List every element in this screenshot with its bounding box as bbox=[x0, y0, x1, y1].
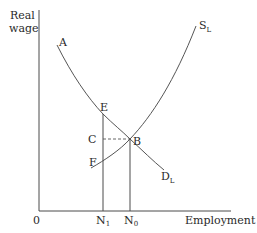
point-f-label: F bbox=[89, 156, 97, 169]
demand-curve-label: DL bbox=[161, 170, 175, 185]
demand-curve bbox=[57, 45, 164, 170]
n0-tick-label: N0 bbox=[124, 214, 138, 228]
n1-tick-label: N1 bbox=[96, 214, 110, 228]
point-b-label: B bbox=[133, 135, 141, 148]
labour-market-diagram: Real wage A E C B F SL DL 0 N1 N0 Employ… bbox=[0, 0, 257, 233]
y-axis-label-line2: wage bbox=[9, 22, 39, 35]
point-e-label: E bbox=[100, 101, 108, 114]
origin-label: 0 bbox=[33, 214, 40, 227]
supply-curve bbox=[91, 26, 196, 168]
x-axis-label: Employment bbox=[185, 214, 256, 227]
supply-curve-label: SL bbox=[199, 19, 212, 34]
point-a-label: A bbox=[58, 36, 68, 49]
point-c-label: C bbox=[88, 133, 96, 146]
y-axis-label-line1: Real bbox=[10, 9, 35, 22]
